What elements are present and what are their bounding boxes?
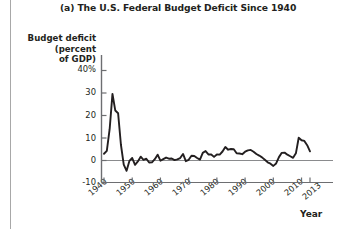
x-axis-tick-marks — [104, 178, 310, 183]
deficit-data-line — [104, 94, 310, 171]
plot-area — [0, 0, 346, 229]
figure-container: (a) The U.S. Federal Budget Deficit Sinc… — [0, 0, 346, 229]
y-axis-tick-marks — [102, 71, 107, 184]
